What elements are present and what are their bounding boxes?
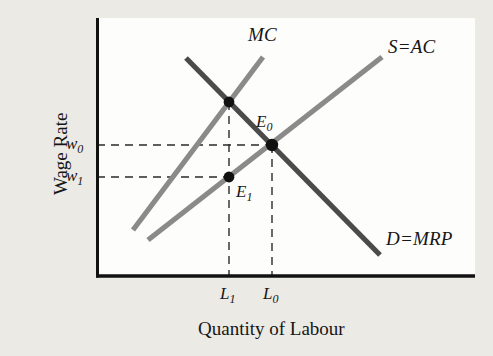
y-axis-title: Wage Rate [50,113,72,195]
economics-diagram: MC S=AC D=MRP E0 E1 w0 w1 L1 L0 Wage Rat… [0,0,493,356]
point-mc-intersection [224,97,235,108]
curve-d-mrp [186,58,380,255]
curve-label-mc: MC [248,24,277,46]
point-label-E1-sub: 1 [246,190,252,204]
y-tick-label-w0-sub: 0 [77,142,83,156]
x-tick-label-L0-sub: 0 [272,292,278,306]
point-label-E1: E1 [236,182,252,205]
point-equilibrium-0 [266,139,278,151]
curve-label-s-ac: S=AC [388,36,435,58]
point-equilibrium-1 [224,172,235,183]
point-label-E0-sub: 0 [266,120,272,134]
x-tick-label-L0: L0 [263,284,278,307]
x-tick-label-L1-sub: 1 [229,292,235,306]
x-axis-title: Quantity of Labour [198,318,345,340]
point-label-E1-base: E [236,182,246,201]
point-label-E0-base: E [256,112,266,131]
y-tick-label-w1-sub: 1 [77,174,83,188]
x-tick-label-L1: L1 [220,284,235,307]
curve-s-ac [148,57,382,240]
point-label-E0: E0 [256,112,272,135]
curve-label-d-mrp: D=MRP [386,228,453,250]
